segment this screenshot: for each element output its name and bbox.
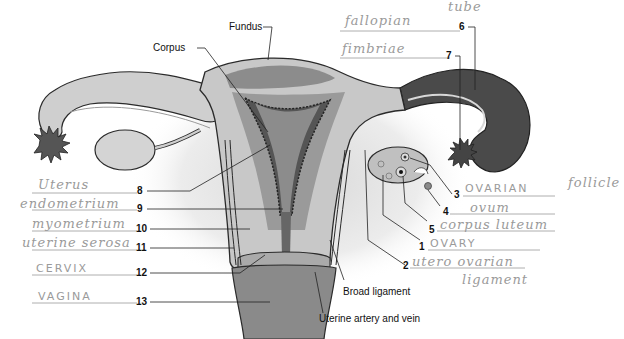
answer-1: OVARY xyxy=(430,237,476,251)
left-ovary xyxy=(95,130,155,170)
answer-5: corpus luteum xyxy=(440,218,548,232)
number-13: 13 xyxy=(136,296,147,308)
right-ovary xyxy=(368,147,428,183)
uterus-anatomy-diagram: Fundus Corpus Broad ligament Uterine art… xyxy=(0,0,624,339)
left-fimbriae xyxy=(34,126,70,163)
answer-10: myometrium xyxy=(32,217,126,231)
label-broad-ligament: Broad ligament xyxy=(343,286,410,298)
number-2: 2 xyxy=(403,260,409,272)
answer-6: fallopian xyxy=(345,14,411,28)
number-7: 7 xyxy=(446,50,452,62)
label-fundus: Fundus xyxy=(229,21,262,33)
answer-4: ovum xyxy=(470,201,510,215)
number-11: 11 xyxy=(136,242,147,254)
anatomy-illustration xyxy=(0,0,624,339)
answer-3-extra: follicle xyxy=(568,176,620,190)
number-6: 6 xyxy=(459,21,465,33)
number-8: 8 xyxy=(137,185,143,197)
number-9: 9 xyxy=(137,203,143,215)
answer-6-extra: tube xyxy=(448,0,482,14)
label-corpus: Corpus xyxy=(153,42,185,54)
answer-9: endometrium xyxy=(20,197,120,211)
answer-11: uterine serosa xyxy=(22,236,131,250)
answer-12: CERVIX xyxy=(36,262,88,276)
number-3: 3 xyxy=(454,189,460,201)
number-1: 1 xyxy=(419,241,425,253)
ovum xyxy=(425,183,432,190)
answer-13: VAGINA xyxy=(38,290,92,304)
number-10: 10 xyxy=(136,223,147,235)
answer-2-line2: ligament xyxy=(462,273,528,287)
number-12: 12 xyxy=(136,267,147,279)
answer-8: Uterus xyxy=(38,178,89,192)
label-uterine-artery-vein: Uterine artery and vein xyxy=(319,313,420,325)
answer-3: OVARIAN xyxy=(465,182,528,196)
cervical-canal xyxy=(281,212,291,258)
answer-2: utero ovarian xyxy=(412,255,514,269)
answer-7: fimbriae xyxy=(342,42,405,56)
number-5: 5 xyxy=(429,224,435,236)
